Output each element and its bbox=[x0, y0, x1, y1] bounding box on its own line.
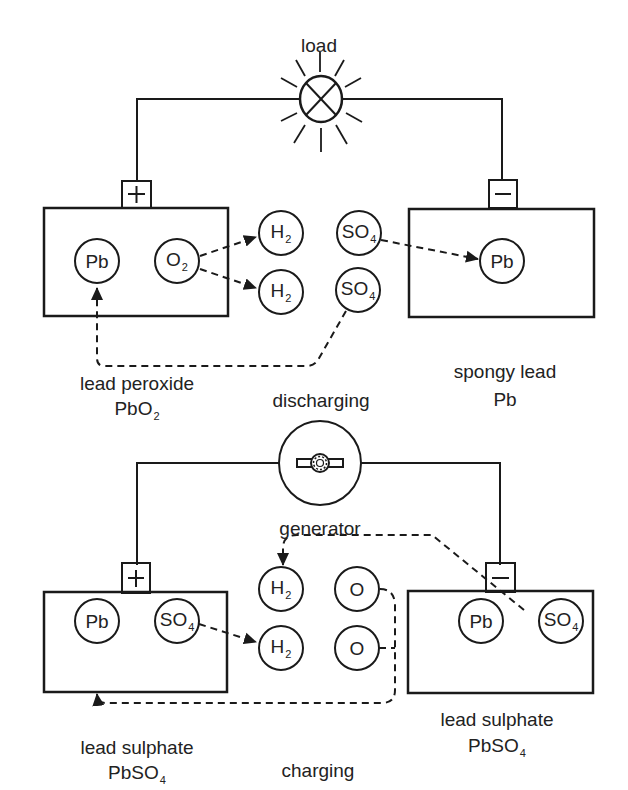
ion-o2: O2 bbox=[166, 250, 188, 273]
generator-icon bbox=[279, 421, 361, 505]
formula-base: PbSO bbox=[108, 762, 159, 783]
ion-h2: H2 bbox=[271, 578, 292, 601]
ion-pb: Pb bbox=[85, 252, 108, 271]
ion-subscript: 4 bbox=[370, 233, 376, 245]
ion-symbol: Pb bbox=[469, 611, 492, 632]
ion-so4: SO4 bbox=[544, 610, 579, 633]
negative-plate-label: spongy lead bbox=[454, 362, 556, 381]
formula-subscript: 4 bbox=[520, 747, 526, 759]
positive-plate-formula: PbO2 bbox=[114, 399, 159, 422]
ion-subscript: 2 bbox=[182, 261, 188, 273]
ion-symbol: H bbox=[271, 280, 285, 301]
charging-title: charging bbox=[282, 761, 355, 780]
ion-o: O bbox=[350, 639, 365, 658]
arrow-so4-to-h2-upper bbox=[283, 535, 524, 610]
charge-positive-plate bbox=[44, 592, 227, 692]
ion-symbol: H bbox=[271, 577, 285, 598]
ion-subscript: 2 bbox=[285, 648, 291, 660]
ion-so4: SO4 bbox=[341, 279, 376, 302]
charge-positive-plate-label: lead sulphate bbox=[80, 738, 193, 757]
ion-subscript: 4 bbox=[572, 621, 578, 633]
discharge-positive-plate bbox=[44, 208, 228, 316]
ion-symbol: H bbox=[271, 221, 285, 242]
charge-positive-terminal bbox=[122, 563, 150, 593]
formula-subscript: 2 bbox=[153, 410, 159, 422]
ion-symbol: H bbox=[271, 636, 285, 657]
discharge-circuit-wire bbox=[137, 99, 502, 181]
arrow-so4-to-pb-positive bbox=[97, 288, 346, 366]
load-label: load bbox=[301, 36, 337, 55]
ion-pb: Pb bbox=[490, 252, 513, 271]
ion-pb: Pb bbox=[85, 612, 108, 631]
ion-subscript: 4 bbox=[188, 621, 194, 633]
ion-subscript: 2 bbox=[285, 233, 291, 245]
formula-subscript: 4 bbox=[160, 774, 166, 786]
ion-h2: H2 bbox=[271, 281, 292, 304]
ion-symbol: SO bbox=[544, 609, 571, 630]
discharge-positive-terminal bbox=[122, 181, 151, 208]
ion-subscript: 4 bbox=[369, 290, 375, 302]
charge-negative-plate-formula: PbSO4 bbox=[468, 736, 526, 759]
formula-base: PbO bbox=[114, 398, 152, 419]
ion-o: O bbox=[350, 580, 365, 599]
charge-positive-plate-formula: PbSO4 bbox=[108, 763, 166, 786]
positive-plate-label: lead peroxide bbox=[80, 374, 194, 393]
charge-negative-terminal bbox=[486, 563, 515, 592]
negative-plate-formula: Pb bbox=[493, 390, 516, 409]
ion-subscript: 2 bbox=[285, 292, 291, 304]
ion-symbol: O bbox=[350, 638, 365, 659]
lamp-icon bbox=[281, 52, 362, 152]
ion-symbol: Pb bbox=[85, 251, 108, 272]
generator-label: generator bbox=[279, 519, 360, 538]
ion-symbol: SO bbox=[160, 609, 187, 630]
ion-symbol: O bbox=[350, 579, 365, 600]
ion-symbol: Pb bbox=[490, 251, 513, 272]
ion-so4: SO4 bbox=[160, 610, 195, 633]
charge-circuit-wire bbox=[137, 463, 500, 565]
formula-base: PbSO bbox=[468, 735, 519, 756]
ion-symbol: Pb bbox=[85, 611, 108, 632]
ion-symbol: SO bbox=[342, 221, 369, 242]
ion-subscript: 2 bbox=[285, 589, 291, 601]
ion-h2: H2 bbox=[271, 222, 292, 245]
ion-symbol: O bbox=[166, 249, 181, 270]
ion-pb: Pb bbox=[469, 612, 492, 631]
discharging-title: discharging bbox=[272, 391, 369, 410]
ion-h2: H2 bbox=[271, 637, 292, 660]
ion-symbol: SO bbox=[341, 278, 368, 299]
ion-so4: SO4 bbox=[342, 222, 377, 245]
discharge-negative-terminal bbox=[489, 180, 517, 208]
charge-negative-plate-label: lead sulphate bbox=[440, 710, 553, 729]
arrow-so4-to-pb-negative bbox=[381, 240, 478, 259]
